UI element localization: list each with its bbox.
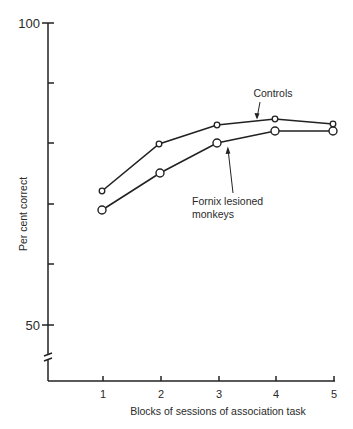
x-tick-label-1: 1 <box>100 388 106 400</box>
annotation-controls: Controls <box>253 87 292 120</box>
svg-text:monkeys: monkeys <box>192 208 234 220</box>
x-axis-label: Blocks of sessions of association task <box>130 405 306 417</box>
svg-text:Fornix lesioned: Fornix lesioned <box>192 195 263 207</box>
arrow-head-icon <box>255 113 260 120</box>
line-chart: 100 50 1 2 3 4 5 Blocks of sessions of a… <box>0 0 353 429</box>
arrow-head-icon <box>226 147 231 155</box>
y-tick-label-50: 50 <box>26 318 40 333</box>
data-point <box>330 121 336 127</box>
y-tick-label-100: 100 <box>18 16 40 31</box>
data-point <box>156 141 162 147</box>
x-tick-label-2: 2 <box>158 388 164 400</box>
series-controls <box>99 116 336 194</box>
data-point <box>99 188 105 194</box>
data-point <box>98 206 106 214</box>
y-axis <box>42 23 54 381</box>
data-point <box>156 169 164 177</box>
data-point <box>271 127 279 135</box>
x-tick-label-3: 3 <box>216 388 222 400</box>
svg-text:Controls: Controls <box>253 87 292 99</box>
data-point <box>213 139 221 147</box>
data-point <box>272 116 278 122</box>
x-tick-label-4: 4 <box>273 388 279 400</box>
annotation-fornix-lesioned: Fornix lesioned monkeys <box>192 147 263 221</box>
data-point <box>214 122 220 128</box>
x-axis <box>48 376 335 381</box>
data-point <box>329 127 337 135</box>
x-tick-label-5: 5 <box>331 388 337 400</box>
y-axis-label: Per cent correct <box>17 177 29 251</box>
